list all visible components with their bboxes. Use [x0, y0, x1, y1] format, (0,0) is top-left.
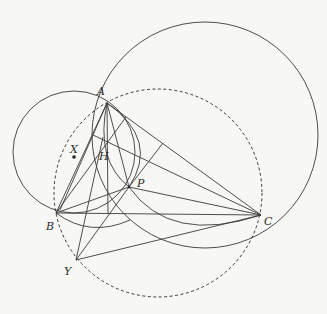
label-x: X [69, 143, 79, 156]
side-bc [56, 213, 261, 215]
label-y: Y [64, 265, 73, 278]
label-c: C [264, 215, 273, 228]
label-p: P [136, 177, 145, 190]
label-h: H [98, 150, 109, 163]
segment-bp [56, 187, 129, 213]
label-a: A [96, 85, 105, 98]
label-b: B [45, 220, 54, 233]
point-p-dot [128, 186, 130, 188]
side-ac [107, 103, 261, 215]
arc-bc [56, 213, 130, 228]
segment-p-ac [129, 143, 163, 187]
geometry-diagram: A B C H P X Y [0, 0, 327, 314]
segment-ap [107, 103, 129, 187]
altitude-b [56, 117, 126, 213]
